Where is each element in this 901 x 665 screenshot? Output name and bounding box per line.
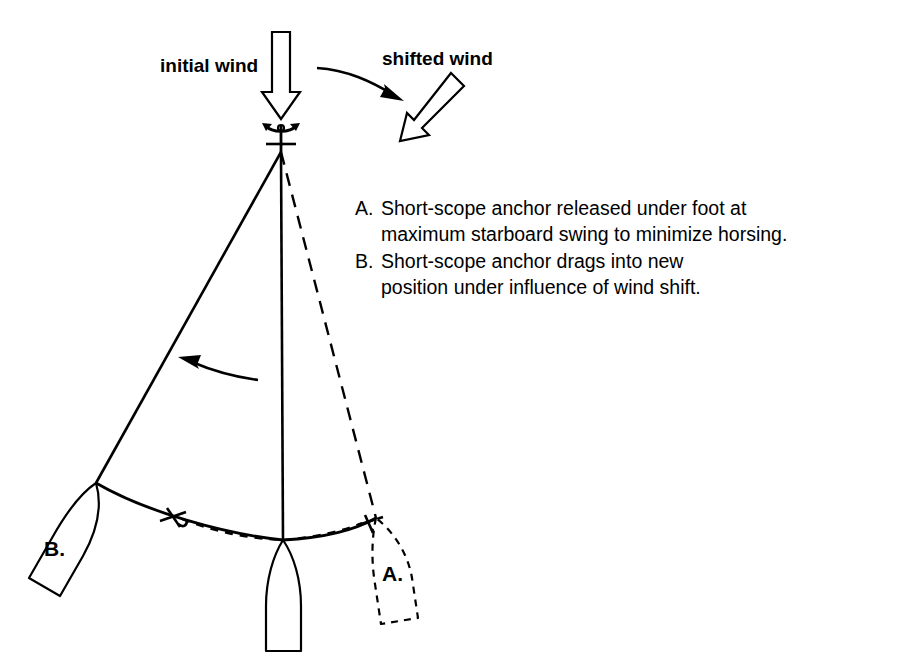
callout-a-line2: maximum starboard swing to minimize hors…	[381, 223, 787, 245]
chain-anchor-left-icon	[160, 508, 187, 527]
callout-block: A. Short-scope anchor released under foo…	[355, 197, 787, 298]
boat-port-b: B.	[29, 483, 99, 596]
initial-wind-arrow-icon	[262, 32, 300, 119]
callout-b-line2: position under influence of wind shift.	[381, 276, 701, 298]
chain-arc-port	[96, 483, 283, 540]
boat-starboard-a: A.	[372, 518, 418, 624]
shifted-wind-label: shifted wind	[382, 48, 493, 69]
boat-center	[266, 540, 301, 651]
callout-a-marker: A.	[355, 197, 373, 219]
boat-b-tag: B.	[44, 537, 65, 560]
chain-arc-starboard	[283, 518, 376, 540]
main-anchor-icon	[262, 123, 300, 152]
center-rode-line	[281, 152, 283, 540]
chain-previous-position-right	[283, 523, 362, 540]
boat-a-tag: A.	[382, 562, 403, 585]
anchoring-diagram: initial wind shifted wind A. Short-scope…	[0, 0, 901, 665]
wind-shift-arrow-icon	[317, 68, 404, 101]
callout-b-marker: B.	[355, 250, 373, 272]
shifted-wind-arrow-icon	[400, 73, 464, 141]
callout-a-line1: Short-scope anchor released under foot a…	[381, 197, 747, 219]
callout-b-line1: Short-scope anchor drags into new	[381, 250, 684, 272]
port-rode-line	[96, 152, 281, 483]
swing-direction-arrow-icon	[178, 355, 258, 380]
initial-wind-label: initial wind	[160, 55, 258, 76]
diagram-canvas: initial wind shifted wind A. Short-scope…	[0, 0, 901, 665]
